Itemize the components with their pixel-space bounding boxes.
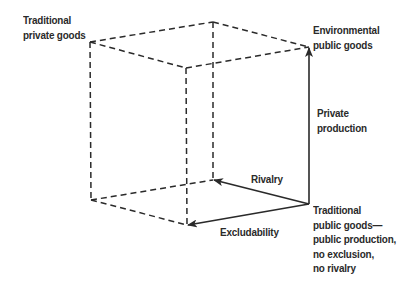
label-line: no rivalry [313, 261, 396, 276]
label-rivalry: Rivalry [251, 172, 283, 187]
edge-back-top-to-right-top [213, 22, 309, 47]
label-private-production: Private production [317, 106, 367, 135]
edge-left-bottom-to-back-bottom [91, 180, 213, 200]
label-line: Excludability [220, 225, 279, 240]
label-line: public production, [313, 232, 396, 247]
edge-left-bottom-to-front-bottom [91, 200, 187, 225]
label-line: production [317, 121, 367, 136]
cube-arrows [188, 48, 309, 225]
label-line: Traditional [313, 203, 396, 218]
edge-left-vertical [90, 42, 91, 200]
label-line: Rivalry [251, 172, 283, 187]
edge-left-top-to-front-top [90, 42, 186, 68]
edge-left-top-to-back-top [90, 22, 213, 42]
excludability-arrow [188, 204, 309, 225]
label-traditional-private-goods: Traditional private goods [23, 13, 86, 42]
label-line: public goods— [313, 218, 396, 233]
label-line: public goods [313, 38, 379, 53]
label-line: Traditional [23, 13, 86, 28]
label-line: Environmental [313, 23, 379, 38]
label-traditional-public-goods: Traditional public goods— public product… [313, 203, 396, 276]
label-line: private goods [23, 28, 86, 43]
label-excludability: Excludability [220, 225, 279, 240]
edge-front-vertical [186, 68, 187, 225]
edge-front-top-to-right-top [186, 47, 309, 68]
label-line: Private [317, 106, 367, 121]
label-line: no exclusion, [313, 247, 396, 262]
cube-dashed-edges [90, 22, 309, 225]
label-environmental-public-goods: Environmental public goods [313, 23, 379, 52]
